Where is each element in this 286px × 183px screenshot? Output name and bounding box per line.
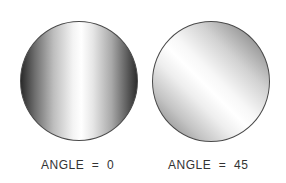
angle-0-label: ANGLE = 0 [41,158,114,172]
angle-45-label: ANGLE = 45 [168,158,248,172]
gradient-sphere-angle-45 [152,21,270,142]
gradient-sphere-angle-0 [20,21,138,141]
